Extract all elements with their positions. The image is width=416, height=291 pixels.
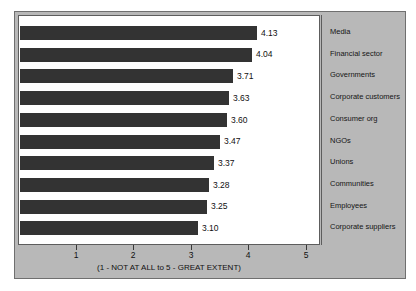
bar-row: 4.04 [20,48,273,62]
bar-row: 4.13 [20,26,278,40]
x-axis-tick-label: 3 [189,251,194,260]
legend-item: Financial sector [330,50,402,58]
x-axis-tick-label: 5 [304,251,309,260]
bar [20,69,233,83]
bar-row: 3.63 [20,91,250,105]
bar [20,221,198,235]
bar [20,200,207,214]
legend-item: Unions [330,158,402,166]
bar-row: 3.47 [20,135,241,149]
x-axis-tick-label: 2 [131,251,136,260]
bar-row: 3.71 [20,69,254,83]
bar [20,156,214,170]
bar-value-label: 3.71 [237,72,254,81]
bar [20,26,257,40]
x-axis-caption: (1 - NOT AT ALL to 5 - GREAT EXTENT) [18,264,320,272]
chart-figure: 4.134.043.713.633.603.473.373.283.253.10… [14,11,406,279]
x-axis: (1 - NOT AT ALL to 5 - GREAT EXTENT) 123… [18,245,320,277]
bar-value-label: 3.63 [233,94,250,103]
bar-value-label: 4.04 [256,50,273,59]
legend-panel: MediaFinancial sectorGovernmentsCorporat… [321,15,404,245]
bar-row: 3.10 [20,221,219,235]
x-axis-tick-label: 1 [74,251,79,260]
bar-value-label: 3.10 [202,224,219,233]
bar [20,91,229,105]
bar-value-label: 3.37 [218,159,235,168]
bar-row: 3.60 [20,113,248,127]
bar-row: 3.37 [20,156,235,170]
bar [20,113,227,127]
bar-row: 3.25 [20,200,228,214]
bar-value-label: 4.13 [261,29,278,38]
legend-item: Consumer org [330,115,402,123]
bar [20,178,209,192]
bar-value-label: 3.47 [224,137,241,146]
bar-value-label: 3.28 [213,181,230,190]
bar-value-label: 3.60 [231,116,248,125]
legend-item: Media [330,28,402,36]
bar [20,135,220,149]
legend-item: NGOs [330,137,402,145]
plot-area: 4.134.043.713.633.603.473.373.283.253.10 [18,15,320,245]
bar [20,48,252,62]
legend-item: Employees [330,202,402,210]
bar-value-label: 3.25 [211,202,228,211]
legend-item: Governments [330,71,402,79]
legend-item: Corporate suppliers [330,223,402,231]
bar-series: 4.134.043.713.633.603.473.373.283.253.10 [19,16,319,244]
legend-item: Corporate customers [330,93,402,101]
bar-row: 3.28 [20,178,230,192]
legend-item: Communities [330,180,402,188]
x-axis-tick-label: 4 [246,251,251,260]
